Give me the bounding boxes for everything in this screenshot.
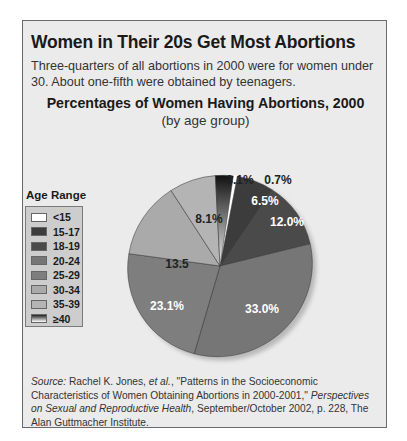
pie-label: 8.1%: [195, 212, 223, 226]
pie-label: 0.7%: [264, 173, 292, 187]
pie-label: 33.0%: [245, 302, 279, 316]
pie-chart: 0.7%6.5%12.0%33.0%23.1%13.58.1%3.1%: [0, 0, 407, 441]
pie-label: 3.1%: [226, 173, 254, 187]
pie-slices: [100, 147, 349, 393]
pie-label: 23.1%: [150, 299, 184, 313]
pie-label: 13.5: [165, 257, 189, 271]
pie-label: 6.5%: [251, 194, 279, 208]
pie-label: 12.0%: [270, 215, 304, 229]
